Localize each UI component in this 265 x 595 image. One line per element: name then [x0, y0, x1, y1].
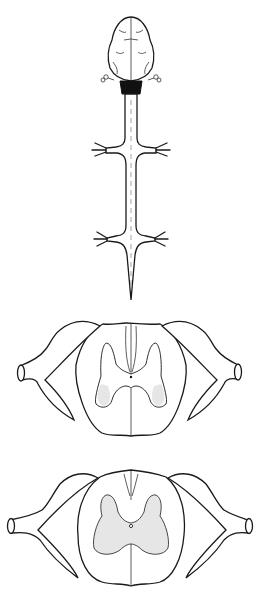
cervical-cross-section-panel — [18, 322, 242, 436]
lumbar-roots-left — [94, 232, 107, 246]
brainstem — [120, 81, 142, 94]
lumbar-cross-section-panel — [8, 470, 253, 586]
lumbar-central-canal — [129, 524, 132, 527]
cranial-nerves-left — [101, 75, 114, 82]
cervical-left-root-end — [18, 365, 25, 381]
brain-spinal-cord-panel — [92, 17, 170, 300]
cervical-roots-right — [156, 143, 170, 156]
cervical-central-canal — [130, 376, 132, 378]
lumbar-right-root-end — [246, 519, 253, 534]
lumbar-roots-right — [155, 232, 168, 246]
cervical-right-root-end — [235, 364, 242, 380]
lumbar-left-root-end — [8, 519, 15, 534]
neuroanatomy-diagram — [0, 0, 265, 595]
cervical-roots-left — [92, 143, 106, 156]
cranial-nerves-right — [148, 75, 161, 82]
spinal-cord — [106, 94, 156, 300]
